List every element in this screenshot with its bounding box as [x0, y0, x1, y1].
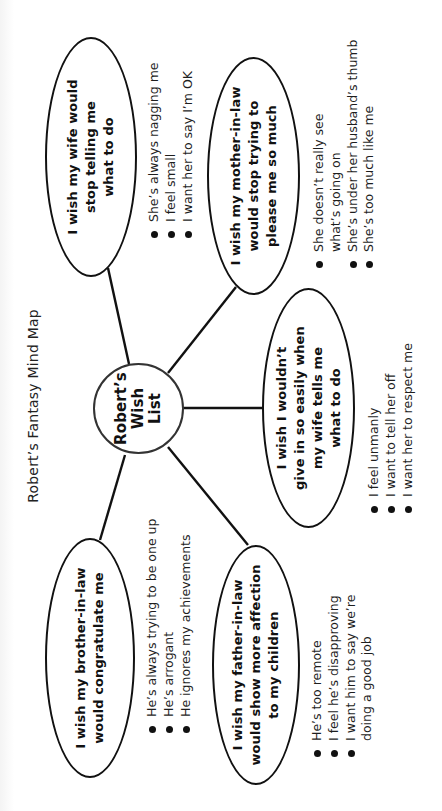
node-wife: I wish my wife would stop telling me wha…: [45, 37, 137, 277]
bullet-item: She doesn’t really seewhat’s going on: [311, 40, 345, 268]
bullets-father-in-law: He’s too remote I feel he’s disapproving…: [309, 595, 376, 757]
bullets-brother-in-law: He’s always trying to be one up He’s arr…: [144, 519, 194, 733]
bullet-item: I want her to respect me: [400, 343, 417, 513]
bullet-item: I feel unmanly: [366, 343, 383, 513]
node-father-in-law: I wish my father-in-law would show more …: [212, 545, 300, 785]
bullet-text: She’s always nagging me: [146, 62, 161, 222]
node-mother-in-law: I wish my mother-in-law would stop tryin…: [207, 57, 300, 295]
bullet-item: I feel he’s disapproving: [326, 595, 343, 757]
bullet-text: I feel he’s disapproving: [326, 595, 341, 741]
bullet-dot-icon: [331, 750, 338, 757]
node-brother-in-law: I wish my brother-in-law would congratul…: [45, 538, 135, 778]
bullets-give-in: I feel unmanly I want to tell her off I …: [366, 343, 416, 513]
bullet-text: She’s under her husband’s thumb: [345, 40, 360, 252]
connector-brother-in-law: [100, 455, 125, 540]
bullet-dot-icon: [166, 726, 173, 733]
bullet-dot-icon: [405, 506, 412, 513]
bullet-item: I want to tell her off: [383, 343, 400, 513]
bullet-text: I feel small: [163, 154, 178, 222]
bullet-text: I want him to say we’re: [343, 595, 358, 741]
bullet-dot-icon: [366, 261, 373, 268]
bullet-item: I feel small: [163, 62, 180, 238]
bullet-item: He’s always trying to be one up: [144, 519, 161, 733]
bullet-text: I want to tell her off: [383, 374, 398, 497]
bullet-item: She’s under her husband’s thumb: [345, 40, 362, 268]
bullet-text: She doesn’t really see: [311, 113, 326, 252]
connector-mother-in-law: [168, 287, 236, 373]
bullet-item: She’s too much like me: [361, 40, 378, 268]
node-wife-label: I wish my wife would stop telling me wha…: [64, 79, 118, 234]
bullet-dot-icon: [151, 231, 158, 238]
bullet-dot-icon: [168, 231, 175, 238]
bullet-dot-icon: [371, 506, 378, 513]
bullets-mother-in-law: She doesn’t really seewhat’s going on Sh…: [311, 40, 378, 268]
bullet-text: I want her to say I’m OK: [180, 71, 195, 222]
bullet-item: He’s too remote: [309, 595, 326, 757]
bullet-dot-icon: [316, 261, 323, 268]
node-mother-in-law-label: I wish my mother-in-law would stop tryin…: [227, 86, 281, 265]
bullet-item: I want her to say I’m OK: [180, 62, 197, 238]
bullet-text: He’s always trying to be one up: [144, 519, 159, 717]
bullet-dot-icon: [388, 506, 395, 513]
node-father-in-law-label: I wish my father-in-law would show more …: [229, 564, 283, 765]
bullet-text-continuation: doing a good job: [359, 595, 376, 741]
bullet-item: He ignores my achievements: [178, 519, 195, 733]
node-give-in-label: I wish I wouldn’t give in so easily when…: [273, 326, 345, 490]
bullet-dot-icon: [185, 231, 192, 238]
bullet-dot-icon: [350, 261, 357, 268]
mind-map-page: Robert’s Fantasy Mind Map Robert’s Wish …: [0, 0, 442, 811]
node-brother-in-law-label: I wish my brother-in-law would congratul…: [72, 567, 108, 748]
connector-wife: [108, 268, 129, 364]
bullet-dot-icon: [183, 726, 190, 733]
page-title: Robert’s Fantasy Mind Map: [25, 301, 41, 511]
bullet-text: She’s too much like me: [361, 106, 376, 252]
bullet-item: She’s always nagging me: [146, 62, 163, 238]
node-give-in: I wish I wouldn’t give in so easily when…: [262, 288, 355, 528]
bullet-item: He’s arrogant: [161, 519, 178, 733]
bullets-wife: She’s always nagging me I feel small I w…: [146, 62, 196, 238]
central-node: Robert’s Wish List: [93, 363, 184, 454]
bullet-text: He’s too remote: [309, 640, 324, 741]
central-node-label: Robert’s Wish List: [113, 372, 164, 445]
bullet-text: I want her to respect me: [400, 343, 415, 497]
bullet-text: I feel unmanly: [366, 408, 381, 497]
bullet-item: I want him to say we’redoing a good job: [343, 595, 377, 757]
bullet-dot-icon: [348, 750, 355, 757]
bullet-text: He’s arrogant: [161, 632, 176, 717]
bullet-dot-icon: [314, 750, 321, 757]
bullet-text-continuation: what’s going on: [328, 40, 345, 252]
bullet-dot-icon: [149, 726, 156, 733]
bullet-text: He ignores my achievements: [178, 534, 193, 717]
